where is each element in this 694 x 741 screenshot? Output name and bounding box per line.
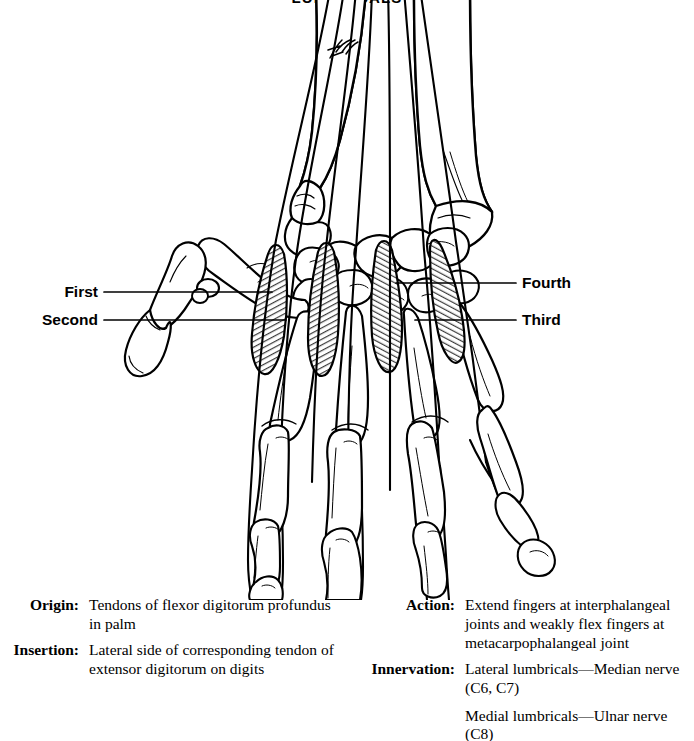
attribute-key-action: Action: [371, 596, 455, 615]
attribute-value-innervation-line-2: Medial lumbricals—Ulnar nerve (C8) [465, 707, 694, 741]
attribute-value-insertion-line-1: Lateral side of corresponding tendon of … [89, 641, 340, 679]
attribute-value-innervation-line-1: Lateral lumbricals—Median nerve (C6, C7) [465, 660, 694, 698]
attribute-row-innervation: Innervation: Lateral lumbricals—Median n… [371, 660, 694, 741]
attribute-column-right: Action: Extend fingers at interphalangea… [371, 596, 694, 741]
attribute-row-insertion: Insertion: Lateral side of corresponding… [0, 641, 340, 679]
attribute-value-action: Extend fingers at interphalangeal joints… [455, 596, 694, 653]
attribute-key-origin: Origin: [0, 596, 79, 615]
attribute-key-innervation: Innervation: [371, 660, 455, 679]
figure-page: LUMBRICALS [0, 0, 694, 741]
middle-phalanges [250, 493, 538, 600]
hand-anatomy-illustration [0, 0, 694, 600]
callout-label-fourth: Fourth [522, 275, 571, 291]
attribute-row-action: Action: Extend fingers at interphalangea… [371, 596, 694, 653]
attribute-value-origin-line-1: Tendons of flexor digitorum profundus in… [89, 596, 340, 634]
attribute-key-insertion: Insertion: [0, 641, 79, 660]
attribute-value-insertion: Lateral side of corresponding tendon of … [79, 641, 340, 679]
attribute-value-innervation: Lateral lumbricals—Median nerve (C6, C7)… [455, 660, 694, 741]
attribute-value-origin: Tendons of flexor digitorum profundus in… [79, 596, 340, 634]
attribute-value-action-line-1: Extend fingers at interphalangeal joints… [465, 596, 694, 653]
distal-phalanges [249, 540, 555, 601]
attribute-column-left: Origin: Tendons of flexor digitorum prof… [0, 596, 340, 686]
attribute-row-origin: Origin: Tendons of flexor digitorum prof… [0, 596, 340, 634]
callout-label-third: Third [522, 312, 561, 328]
callout-label-second: Second [0, 312, 98, 328]
callout-label-first: First [0, 284, 98, 300]
hand-skeleton-svg [0, 0, 694, 600]
